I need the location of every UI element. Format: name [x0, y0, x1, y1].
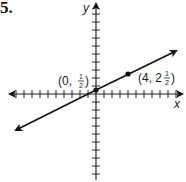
svg-text:): ) [85, 74, 89, 88]
svg-text:): ) [171, 71, 175, 85]
graph-line [96, 51, 176, 90]
svg-text:2: 2 [79, 82, 83, 89]
point-label-2: (4, 2 1 2 ) [138, 70, 175, 86]
svg-text:(4, 2: (4, 2 [138, 71, 162, 85]
svg-text:1: 1 [79, 73, 83, 80]
point-4-2half [125, 71, 130, 76]
svg-text:1: 1 [165, 70, 169, 77]
point-0-half [93, 87, 98, 92]
x-axis-label: x [173, 97, 181, 111]
svg-text:(0,: (0, [58, 74, 72, 88]
coordinate-plane: y x (0, 1 2 ) (4, 2 1 2 ) [0, 0, 186, 182]
point-label-1: (0, 1 2 ) [58, 73, 89, 89]
svg-text:2: 2 [165, 79, 169, 86]
y-axis-label: y [82, 1, 90, 15]
